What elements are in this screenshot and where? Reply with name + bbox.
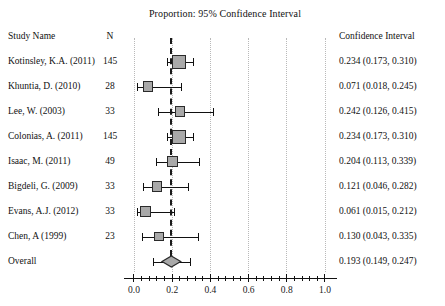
row-study-name: Lee, W. (2003) [8,106,65,117]
x-tick-label: 0.6 [229,285,269,295]
x-tick-major [133,274,134,282]
row-ci-cap-lower [137,83,138,91]
gridline-1.0 [325,38,326,272]
row-ci-whisker [158,112,213,113]
x-tick-label: 0.4 [190,285,230,295]
x-tick-label: 1.0 [305,285,345,295]
overall-ci-whisker [153,262,190,263]
row-confidence-interval: 0.234 (0.173, 0.310) [339,131,417,142]
x-tick-minor [156,276,157,281]
x-tick-minor [202,276,203,281]
x-tick-minor [141,276,142,281]
column-header-n: N [96,31,124,42]
overall-ci-cap-upper [190,258,191,266]
row-confidence-interval: 0.071 (0.018, 0.245) [339,81,417,92]
x-tick-minor [240,276,241,281]
gridline-0.4 [210,38,211,272]
column-header-study-name: Study Name [8,31,55,42]
row-ci-whisker [167,62,193,63]
row-ci-cap-upper [198,233,199,241]
x-tick-minor [179,276,180,281]
row-sample-size: 23 [96,231,124,242]
overall-confidence-interval: 0.193 (0.149, 0.247) [339,256,417,267]
row-estimate-marker [143,81,153,91]
x-tick-label: 0.8 [267,285,307,295]
x-tick-minor [225,276,226,281]
gridline-0.6 [248,38,249,272]
row-study-name: Chen, A (1999) [8,231,66,242]
row-ci-cap-lower [156,158,157,166]
row-ci-cap-upper [193,133,194,141]
row-ci-whisker [143,187,188,188]
overall-label: Overall [8,256,37,267]
row-estimate-marker [172,130,186,144]
row-ci-cap-upper [181,83,182,91]
x-tick-label: 0.2 [152,285,192,295]
x-tick-major [210,274,211,282]
row-confidence-interval: 0.242 (0.126, 0.415) [339,106,417,117]
row-sample-size: 33 [96,181,124,192]
row-estimate-marker [175,106,185,116]
x-tick-minor [218,276,219,281]
overall-ci-cap-lower [153,258,154,266]
row-ci-cap-upper [199,158,200,166]
row-study-name: Kotinsley, K.A. (2011) [8,56,95,67]
row-ci-cap-lower [143,183,144,191]
row-confidence-interval: 0.130 (0.043, 0.335) [339,231,417,242]
row-ci-cap-upper [213,108,214,116]
row-sample-size: 145 [96,131,124,142]
plot-title: Proportion: 95% Confidence Interval [125,8,325,19]
x-tick-minor [263,276,264,281]
row-ci-cap-upper [174,208,175,216]
row-study-name: Colonias, A. (2011) [8,131,83,142]
row-ci-cap-lower [167,58,168,66]
row-study-name: Isaac, M. (2011) [8,156,70,167]
row-ci-whisker [137,87,180,88]
gridline-0.8 [286,38,287,272]
x-tick-major [324,274,325,282]
row-confidence-interval: 0.061 (0.015, 0.212) [339,206,417,217]
x-tick-minor [309,276,310,281]
gridline-0.2 [172,38,173,272]
row-ci-whisker [156,162,199,163]
x-tick-label: 0.0 [114,285,154,295]
x-tick-minor [149,276,150,281]
row-sample-size: 33 [96,206,124,217]
row-estimate-marker [152,181,162,191]
row-sample-size: 28 [96,81,124,92]
row-ci-cap-lower [137,208,138,216]
row-ci-whisker [167,137,193,138]
row-ci-whisker [142,237,198,238]
row-ci-cap-lower [142,233,143,241]
x-tick-minor [294,276,295,281]
x-tick-major [286,274,287,282]
row-estimate-marker [167,156,178,167]
x-tick-minor [187,276,188,281]
x-tick-minor [271,276,272,281]
overall-diamond-marker [162,256,181,267]
row-study-name: Bigdeli, G. (2009) [8,181,78,192]
forest-plot: Proportion: 95% Confidence Interval Stud… [0,0,445,306]
column-header-confidence-interval: Confidence Interval [339,31,415,42]
row-study-name: Evans, A.J. (2012) [8,206,78,217]
x-tick-minor [317,276,318,281]
gridline-0.0 [134,38,135,272]
row-estimate-marker [154,232,164,242]
x-tick-major [172,274,173,282]
row-ci-cap-lower [167,133,168,141]
row-estimate-marker [140,206,150,216]
x-tick-minor [279,276,280,281]
x-tick-minor [233,276,234,281]
row-confidence-interval: 0.234 (0.173, 0.310) [339,56,417,67]
x-tick-minor [302,276,303,281]
row-ci-cap-upper [193,58,194,66]
x-tick-major [248,274,249,282]
x-tick-minor [256,276,257,281]
row-sample-size: 33 [96,106,124,117]
row-estimate-marker [172,55,186,69]
row-ci-cap-lower [158,108,159,116]
row-ci-whisker [137,212,175,213]
x-axis-line [124,278,337,279]
x-tick-minor [164,276,165,281]
row-ci-cap-upper [188,183,189,191]
